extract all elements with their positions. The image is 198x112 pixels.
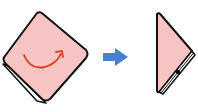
folded-triangle-shape <box>150 5 198 105</box>
step-square-napkin <box>0 0 100 112</box>
next-step-arrow <box>100 46 132 68</box>
right-arrow-icon <box>100 46 132 68</box>
step-folded-triangle <box>150 5 198 105</box>
square-napkin-shape <box>0 0 100 112</box>
folding-diagram: folding-instruction <box>0 0 198 112</box>
